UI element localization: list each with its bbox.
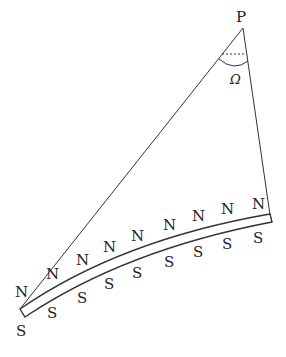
south-label: S [77,289,87,307]
north-label: N [103,238,116,256]
south-label: S [193,243,203,261]
south-label: S [222,235,232,253]
north-label: N [131,227,144,245]
south-labels: S S S S S S S S S [16,229,263,340]
north-label: N [252,195,265,213]
south-label: S [132,264,142,282]
solid-angle-diagram: P Ω N N N N N N N N N S S S S S S S S S [0,0,286,357]
south-label: S [253,229,263,247]
south-label: S [16,322,26,340]
north-label: N [221,200,234,218]
north-label: N [76,251,89,269]
north-label: N [46,265,59,283]
south-label: S [104,275,114,293]
south-label: S [47,304,57,322]
south-label: S [164,253,174,271]
north-label: N [163,216,176,234]
angle-arc [219,59,248,66]
north-label: N [15,283,28,301]
north-label: N [192,207,205,225]
cone-right-line [243,28,270,215]
apex-label: P [236,8,246,26]
angle-label: Ω [229,72,241,87]
